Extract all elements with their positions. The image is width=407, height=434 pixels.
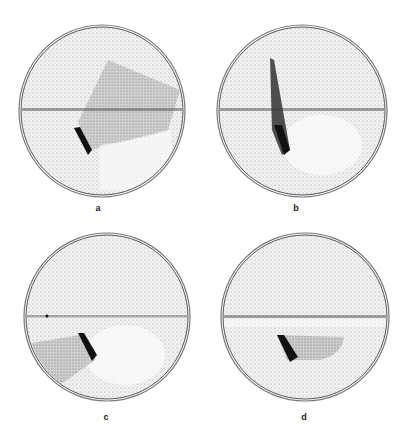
panel-c: c (0, 215, 200, 430)
panel-label-b: b (286, 203, 306, 213)
panel-label-d: d (294, 412, 314, 422)
panel-b: b (202, 0, 402, 215)
petri-dish-a (0, 0, 205, 215)
panel-a: a (0, 0, 200, 215)
panel-label-c: c (96, 412, 116, 422)
panel-d: d (202, 215, 402, 430)
petri-dish-d (202, 215, 407, 434)
petri-dish-c (0, 215, 205, 434)
petri-dish-b (202, 0, 407, 215)
panel-label-a: a (88, 203, 108, 213)
